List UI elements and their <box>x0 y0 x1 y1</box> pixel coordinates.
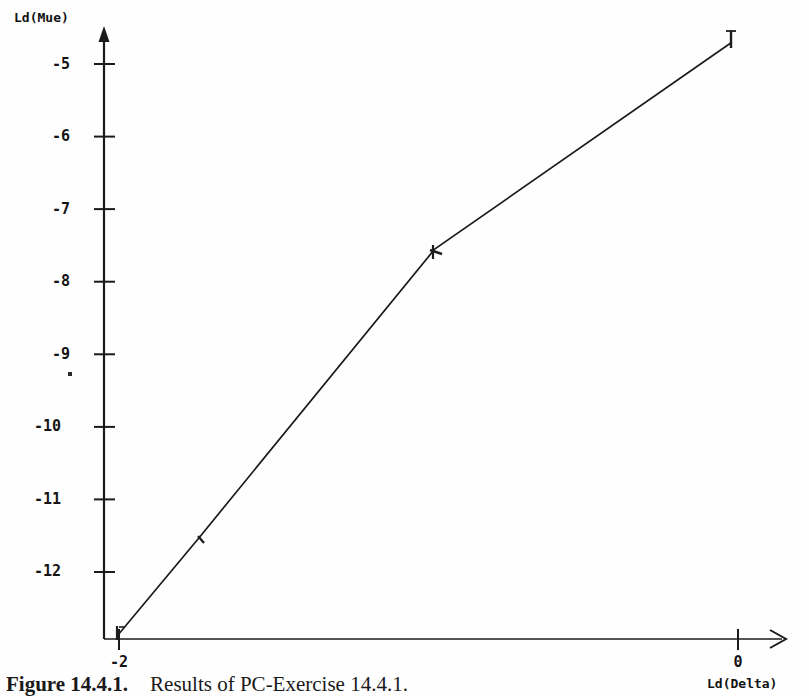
figure-page: Ld(Mue) Ld(Delta) -5 -6 -7 -8 -9 -10 -11… <box>0 0 809 696</box>
chart-canvas <box>0 0 809 696</box>
figure-caption-number: Figure 14.4.1. <box>6 672 128 696</box>
x-axis <box>104 630 786 648</box>
y-tick-label: -12 <box>3 562 61 580</box>
y-tick-label: -10 <box>3 417 61 435</box>
y-tick-label: -8 <box>12 272 70 290</box>
y-tick-label: -7 <box>12 200 70 218</box>
figure-caption: Figure 14.4.1.Results of PC-Exercise 14.… <box>0 672 809 696</box>
y-axis <box>99 26 110 639</box>
x-tick-label: 0 <box>718 653 758 671</box>
y-tick-label: -9 <box>12 345 70 363</box>
y-tick-label: -11 <box>3 490 61 508</box>
x-tick-label: -2 <box>99 653 139 671</box>
data-series-line <box>119 42 732 634</box>
data-point-markers <box>117 31 736 640</box>
y-tick-label: -6 <box>12 127 70 145</box>
y-tick-label: -5 <box>12 55 70 73</box>
y-axis-title: Ld(Mue) <box>14 10 69 25</box>
scan-speck <box>68 372 72 376</box>
figure-caption-text: Results of PC-Exercise 14.4.1. <box>150 672 408 696</box>
